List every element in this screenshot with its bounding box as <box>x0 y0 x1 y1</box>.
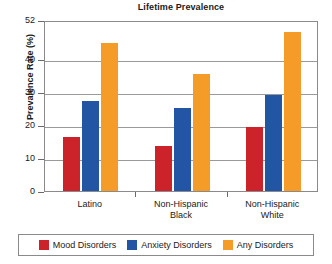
chart-legend: Mood DisordersAnxiety DisordersAny Disor… <box>18 234 314 256</box>
bar <box>193 74 210 191</box>
bar <box>63 137 80 191</box>
y-axis-tick-label: 20 <box>0 121 35 130</box>
x-axis-tick-label-line1: Non-Hispanic <box>245 199 299 209</box>
y-axis-tick-label: 52 <box>0 16 35 25</box>
bar <box>284 32 301 191</box>
x-axis-tick-label-line1: Non-Hispanic <box>154 199 208 209</box>
chart-title: Lifetime Prevalence <box>44 2 318 12</box>
bar <box>265 95 282 191</box>
y-axis-tick-label: 30 <box>0 88 35 97</box>
bar <box>82 101 99 191</box>
bar <box>101 43 118 191</box>
y-axis-tick-label: 10 <box>0 154 35 163</box>
x-axis-tick-label: Non-HispanicWhite <box>227 199 318 221</box>
y-axis-tick <box>38 192 44 193</box>
x-axis-tick <box>135 192 136 197</box>
gridline <box>45 61 317 62</box>
legend-item-label: Anxiety Disorders <box>141 240 212 250</box>
legend-swatch-icon <box>223 240 233 250</box>
x-axis-tick <box>227 192 228 197</box>
legend-item[interactable]: Any Disorders <box>223 240 294 250</box>
x-axis-tick-label-line2: Black <box>135 210 226 221</box>
bar-chart: Lifetime Prevalence Prevalence Rate (%) … <box>0 0 332 264</box>
x-axis-tick-label: Non-HispanicBlack <box>135 199 226 221</box>
x-axis-tick-label-line2: White <box>227 210 318 221</box>
x-axis-tick-label: Latino <box>44 199 135 210</box>
plot-inner <box>45 22 317 191</box>
bar <box>155 146 172 191</box>
legend-item[interactable]: Anxiety Disorders <box>127 240 212 250</box>
legend-item-label: Any Disorders <box>237 240 294 250</box>
y-axis-tick-label: 0 <box>0 187 35 196</box>
plot-area <box>44 21 318 192</box>
legend-swatch-icon <box>39 240 49 250</box>
bar <box>174 108 191 191</box>
legend-item-label: Mood Disorders <box>53 240 117 250</box>
legend-item[interactable]: Mood Disorders <box>39 240 117 250</box>
legend-swatch-icon <box>127 240 137 250</box>
bar <box>246 127 263 191</box>
y-axis-tick-label: 40 <box>0 55 35 64</box>
x-axis-tick-label-line1: Latino <box>77 199 102 209</box>
